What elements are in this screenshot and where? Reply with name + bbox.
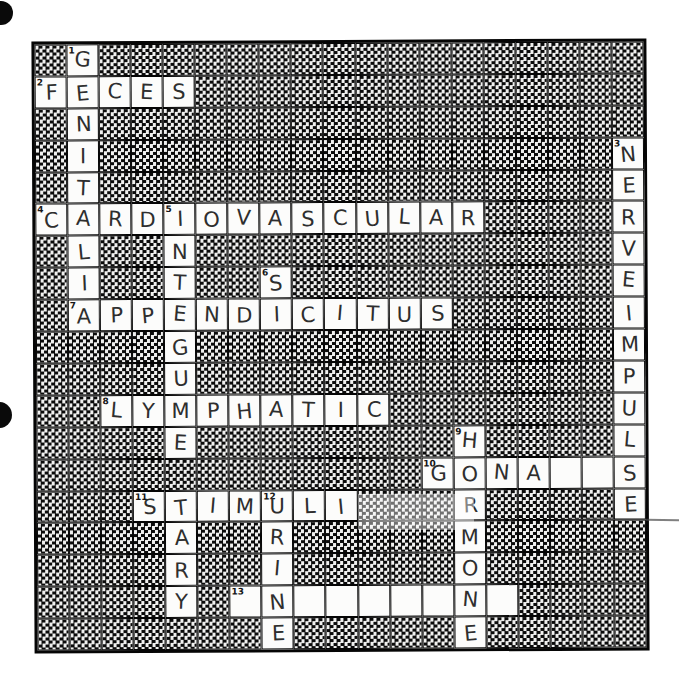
crossword-cell: L <box>67 236 99 268</box>
blocked-cell <box>517 297 549 329</box>
crossword-cell: I <box>67 140 99 172</box>
handwritten-letter: M <box>165 396 195 426</box>
blocked-cell <box>197 554 229 586</box>
blocked-cell <box>357 457 389 489</box>
blocked-cell <box>324 266 356 298</box>
crossword-cell: E <box>454 616 486 648</box>
blocked-cell <box>163 44 195 76</box>
crossword-cell: 5I <box>163 203 195 235</box>
crossword-cell: E <box>262 617 294 649</box>
blocked-cell <box>325 426 357 458</box>
blocked-cell <box>549 297 581 329</box>
crossword-cell: 3N <box>612 137 644 169</box>
blocked-cell <box>229 522 261 554</box>
handwritten-letter: R <box>166 555 196 585</box>
blocked-cell <box>227 171 259 203</box>
blocked-cell <box>324 234 356 266</box>
blocked-cell <box>580 137 612 169</box>
blocked-cell <box>227 43 259 75</box>
crossword-cell: O <box>453 457 485 489</box>
blocked-cell <box>291 171 323 203</box>
blocked-cell <box>227 75 259 107</box>
blocked-cell <box>323 75 355 107</box>
handwritten-letter: Y <box>133 395 164 426</box>
blocked-cell <box>387 138 419 170</box>
blocked-cell <box>355 75 387 107</box>
blocked-cell <box>419 42 451 74</box>
blocked-cell <box>581 392 613 424</box>
blocked-cell <box>580 105 612 137</box>
handwritten-letter: T <box>165 491 198 524</box>
blocked-cell <box>355 107 387 139</box>
handwritten-letter: C <box>99 75 131 107</box>
blocked-cell <box>195 44 227 76</box>
crossword-cell: V <box>612 233 644 265</box>
blocked-cell <box>483 74 515 106</box>
handwritten-letter: G <box>66 43 98 75</box>
handwritten-letter: L <box>67 236 100 269</box>
crossword-cell: C <box>99 76 131 108</box>
blocked-cell <box>228 330 260 362</box>
crossword-cell: I <box>68 268 100 300</box>
handwritten-letter: V <box>228 202 260 234</box>
crossword-cell: O <box>454 553 486 585</box>
crossword-cell: T <box>293 394 325 426</box>
handwritten-letter: O <box>195 204 228 237</box>
crossword-cell: 9H <box>453 425 485 457</box>
handwritten-letter: I <box>69 268 100 299</box>
blocked-cell <box>357 425 389 457</box>
blocked-cell <box>580 265 612 297</box>
blocked-cell <box>197 426 229 458</box>
blocked-cell <box>69 491 101 523</box>
blocked-cell <box>515 42 547 74</box>
handwritten-letter: R <box>100 204 131 235</box>
crossword-cell: L <box>613 424 645 456</box>
crossword-cell: L <box>293 490 325 522</box>
handwritten-letter: I <box>165 204 196 235</box>
crossword-cell: O <box>196 203 228 235</box>
handwritten-letter: C <box>292 299 325 332</box>
blocked-cell <box>196 235 228 267</box>
crossword-cell: T <box>356 298 388 330</box>
blocked-cell <box>196 267 228 299</box>
blocked-cell <box>579 73 611 105</box>
blocked-cell <box>387 43 419 75</box>
crossword-cell: C <box>324 202 356 234</box>
blocked-cell <box>228 235 260 267</box>
blocked-cell <box>133 554 165 586</box>
crossword-cell: S <box>420 298 452 330</box>
blocked-cell <box>451 74 483 106</box>
blocked-cell <box>68 363 100 395</box>
crossword-cell: A <box>67 204 99 236</box>
crossword-cell: T <box>165 490 197 522</box>
crossword-cell <box>422 585 454 617</box>
blocked-cell <box>228 267 260 299</box>
blocked-cell <box>518 584 550 616</box>
blocked-cell <box>69 618 101 650</box>
blocked-cell <box>517 393 549 425</box>
blocked-cell <box>101 522 133 554</box>
blocked-cell <box>484 202 516 234</box>
blocked-cell <box>356 266 388 298</box>
blocked-cell <box>580 201 612 233</box>
blocked-cell <box>165 458 197 490</box>
handwritten-letter: I <box>262 299 293 330</box>
blocked-cell <box>230 618 262 650</box>
blocked-cell <box>581 329 613 361</box>
blocked-cell <box>132 331 164 363</box>
blocked-cell <box>550 552 582 584</box>
crossword-cell: P <box>613 360 645 392</box>
blocked-cell <box>292 330 324 362</box>
blocked-cell <box>483 42 515 74</box>
crossword-cell: C <box>292 298 324 330</box>
crossword-cell: M <box>164 395 196 427</box>
handwritten-letter: U <box>614 393 645 424</box>
crossword-cell: P <box>100 299 132 331</box>
blocked-cell <box>453 393 485 425</box>
blocked-cell <box>549 424 581 456</box>
handwritten-letter: T <box>357 298 388 329</box>
handwritten-letter: S <box>293 204 323 234</box>
blocked-cell <box>420 138 452 170</box>
blocked-cell <box>37 491 69 523</box>
blocked-cell <box>453 329 485 361</box>
